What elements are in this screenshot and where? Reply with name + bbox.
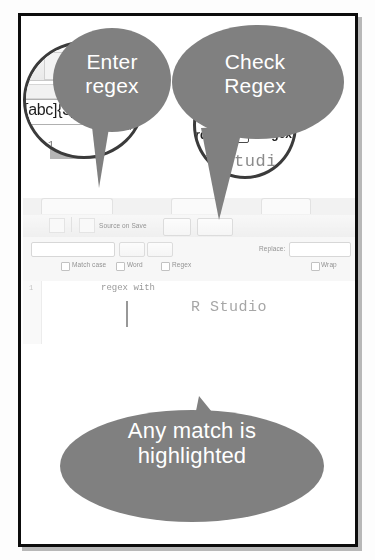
find-prev-button[interactable]	[147, 242, 173, 257]
wrap-label: Wrap	[321, 261, 337, 268]
whole-word-label: Word	[127, 261, 143, 268]
find-icon[interactable]	[79, 218, 95, 233]
find-next-button[interactable]	[119, 242, 145, 257]
editor-line-text: regex with	[101, 283, 155, 293]
rstudio-editor[interactable]: 1 regex with R Studio	[23, 281, 355, 344]
callout-check-regex-text: Check Regex	[165, 50, 345, 97]
editor-caret	[126, 301, 128, 327]
slide-canvas: Source on Save Replace: Match case Word …	[0, 0, 375, 560]
source-on-save-label: Source on Save	[99, 222, 147, 229]
match-case-checkbox[interactable]	[61, 262, 70, 271]
editor-line-number: 1	[29, 284, 33, 292]
whole-word-checkbox[interactable]	[116, 262, 125, 271]
callout-any-match-text: Any match is highlighted	[47, 419, 337, 468]
slide-frame: Source on Save Replace: Match case Word …	[18, 13, 358, 547]
editor-secondary-text: R Studio	[191, 299, 267, 316]
find-input[interactable]	[31, 242, 115, 257]
replace-input[interactable]	[289, 242, 351, 257]
regex-label: Regex	[172, 261, 191, 268]
wrap-checkbox[interactable]	[311, 262, 320, 271]
save-icon[interactable]	[49, 218, 65, 233]
match-case-label: Match case	[72, 261, 106, 268]
replace-label: Replace:	[259, 245, 285, 252]
regex-checkbox[interactable]	[161, 262, 170, 271]
toolbar-divider	[71, 217, 72, 232]
